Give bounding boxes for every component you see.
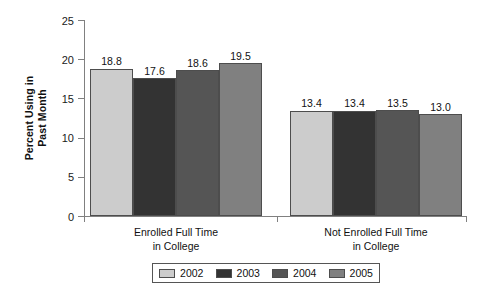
y-axis-tick-label: 5 <box>68 172 74 183</box>
bar-2005-group-1: 19.5 <box>219 63 262 216</box>
x-axis-group-label-line-1: Enrolled Full Time <box>134 226 218 240</box>
bar-chart: Percent Using in Past Month 0510152025 1… <box>0 0 502 299</box>
bar-value-label: 13.4 <box>344 98 364 109</box>
bar-value-label: 17.6 <box>144 66 164 77</box>
legend-label: 2002 <box>180 268 203 279</box>
x-axis-group-label-line-2: in College <box>324 240 427 254</box>
legend-item-2004: 2004 <box>272 268 316 279</box>
y-axis-tick-label: 20 <box>62 54 74 65</box>
x-axis-group-label-2: Not Enrolled Full Timein College <box>324 226 427 253</box>
x-axis-group-label-line-1: Not Enrolled Full Time <box>324 226 427 240</box>
bar-2005-group-2: 13.0 <box>419 114 462 216</box>
y-axis-title-line-2: Past Month <box>36 89 49 147</box>
bar-value-label: 19.5 <box>230 51 250 62</box>
y-axis-title: Percent Using in Past Month <box>14 48 58 188</box>
bar-value-label: 13.4 <box>301 98 321 109</box>
bar-2002-group-1: 18.8 <box>90 69 133 216</box>
legend-item-2002: 2002 <box>159 268 203 279</box>
legend-item-2003: 2003 <box>216 268 260 279</box>
x-axis-tick <box>277 216 278 222</box>
x-axis-tick <box>466 216 467 222</box>
legend-label: 2005 <box>350 268 373 279</box>
y-axis-tick-label: 25 <box>62 15 74 26</box>
bar-value-label: 13.5 <box>387 98 407 109</box>
legend-item-2005: 2005 <box>329 268 373 279</box>
legend-swatch-icon <box>159 269 175 278</box>
bar-2003-group-2: 13.4 <box>333 111 376 216</box>
bar-2004-group-1: 18.6 <box>176 70 219 216</box>
y-axis-title-line-1: Percent Using in <box>23 76 36 160</box>
plot-area: 18.817.618.619.513.413.413.513.0 <box>84 20 466 216</box>
bar-2003-group-1: 17.6 <box>133 78 176 216</box>
legend-label: 2004 <box>293 268 316 279</box>
bar-2004-group-2: 13.5 <box>376 110 419 216</box>
legend-swatch-icon <box>216 269 232 278</box>
legend-label: 2003 <box>237 268 260 279</box>
x-axis-tick <box>84 216 85 222</box>
legend-swatch-icon <box>272 269 288 278</box>
chart-legend: 2002200320042005 <box>152 263 380 283</box>
bar-value-label: 18.8 <box>101 56 121 67</box>
bar-2002-group-2: 13.4 <box>290 111 333 216</box>
bar-value-label: 13.0 <box>430 102 450 113</box>
x-axis-line <box>84 216 466 217</box>
legend-swatch-icon <box>329 269 345 278</box>
bar-value-label: 18.6 <box>187 58 207 69</box>
y-axis-tick-label: 10 <box>62 133 74 144</box>
x-axis-group-label-1: Enrolled Full Timein College <box>134 226 218 253</box>
y-axis-tick-label: 15 <box>62 93 74 104</box>
x-axis-group-label-line-2: in College <box>134 240 218 254</box>
y-axis-tick-label: 0 <box>68 211 74 222</box>
